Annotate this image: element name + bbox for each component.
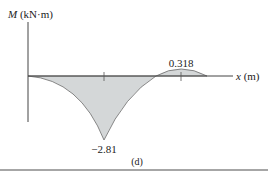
negative-moment-region	[28, 76, 156, 140]
caption: (d)	[131, 156, 143, 168]
moment-diagram: M (kN·m) x (m) 0.318 −2.81 (d)	[0, 0, 268, 171]
max-value-label: 0.318	[169, 57, 194, 69]
positive-moment-region	[156, 69, 207, 76]
y-axis-label: M (kN·m)	[7, 8, 53, 21]
x-axis-label: x (m)	[235, 70, 260, 83]
min-value-label: −2.81	[91, 143, 116, 155]
